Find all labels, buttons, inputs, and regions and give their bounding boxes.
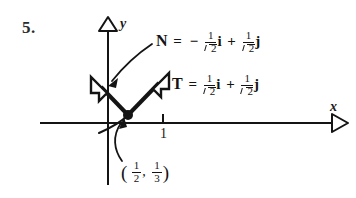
radical-icon: 2 (204, 86, 216, 98)
leader-arrow-point-curve (115, 123, 122, 161)
equation-T-i-fraction: 1 2 (204, 73, 216, 97)
equation-tangent-vector: T = 1 2 i + 1 2 j (172, 73, 259, 97)
point-open-paren: ( (121, 162, 127, 183)
point-marker (123, 110, 133, 120)
point-y-numerator: 1 (152, 160, 162, 173)
radical-icon: 2 (205, 43, 217, 55)
equation-N-name: N (156, 32, 168, 49)
vector-N-arrowhead-icon (91, 77, 107, 101)
equation-N-j-unit: j (255, 33, 260, 49)
equation-N-sign: − (188, 33, 201, 49)
equation-N-j-denominator: 2 (243, 43, 255, 55)
equation-T-j-denominator: 2 (241, 86, 253, 98)
point-coordinate-label: ( 1 2 , 1 3 ) (121, 160, 169, 184)
point-x-fraction: 1 2 (132, 160, 142, 184)
vector-T-arrowhead-icon (153, 73, 169, 97)
x-axis-tick-label-1: 1 (160, 126, 167, 142)
point-x-denominator: 2 (132, 173, 142, 185)
point-comma: , (142, 164, 148, 179)
equation-T-i-unit: i (216, 76, 220, 92)
equation-N-i-fraction: 1 2 (205, 30, 217, 54)
point-y-denominator: 3 (152, 173, 162, 185)
equation-N-plus: + (225, 33, 238, 49)
equation-T-i-denominator: 2 (204, 86, 216, 98)
equation-T-equals: = (186, 76, 199, 92)
equation-normal-vector: N = − 1 2 i + 1 2 j (156, 30, 260, 54)
x-axis-arrowhead-icon (332, 114, 348, 132)
point-x-numerator: 1 (132, 160, 142, 173)
equation-N-equals: = (171, 33, 184, 49)
equation-T-name: T (172, 75, 183, 92)
equation-N-i-unit: i (217, 33, 221, 49)
problem-number: 5. (22, 18, 36, 38)
vector-T (128, 73, 169, 115)
point-close-paren: ) (163, 162, 169, 183)
leader-arrow-N-curve (112, 44, 152, 81)
equation-T-j-fraction: 1 2 (241, 73, 253, 97)
x-axis-label: x (330, 99, 337, 115)
equation-N-j-fraction: 1 2 (243, 30, 255, 54)
leader-arrow-N (108, 44, 152, 88)
radical-icon: 2 (241, 86, 253, 98)
radical-icon: 2 (243, 43, 255, 55)
equation-T-j-unit: j (254, 76, 259, 92)
point-y-fraction: 1 3 (152, 160, 162, 184)
equation-T-plus: + (224, 76, 237, 92)
vector-N (91, 77, 128, 115)
y-axis-arrowhead-icon (99, 17, 117, 31)
y-axis-label: y (120, 16, 126, 32)
equation-N-i-denominator: 2 (205, 43, 217, 55)
